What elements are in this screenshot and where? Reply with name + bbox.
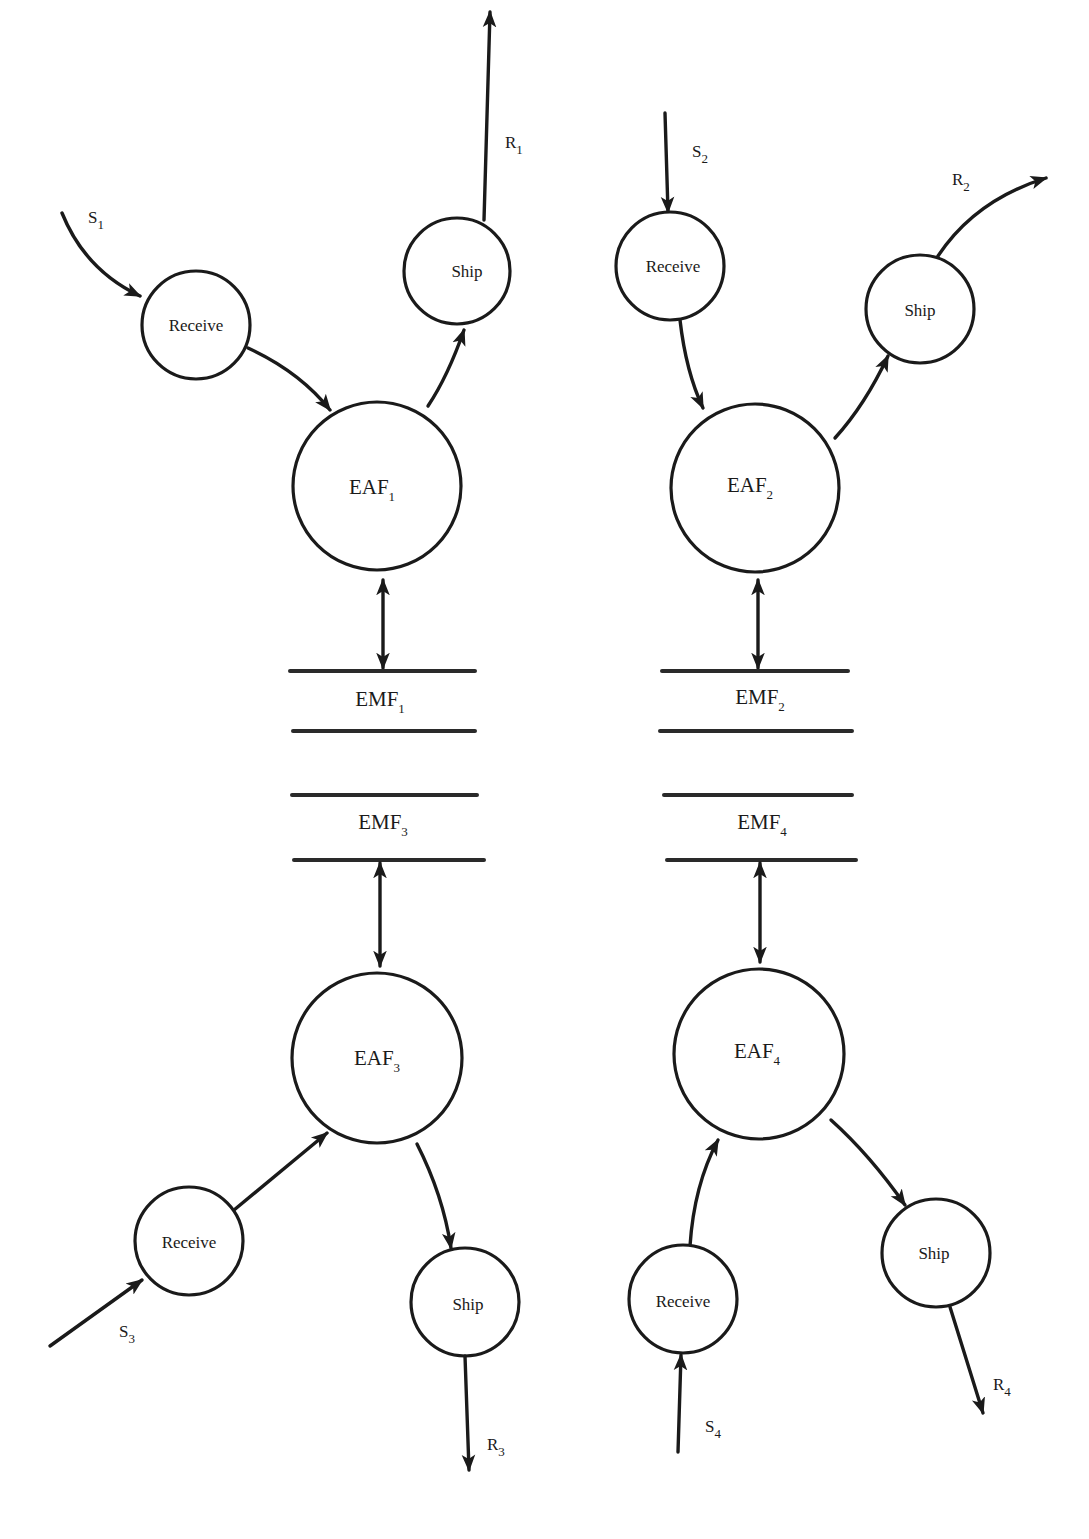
emf-label-4: EMF4 [737, 810, 787, 839]
quadrant-3: EAF3 Receive S3 Ship R3 [50, 863, 519, 1470]
receive-label-2: Receive [646, 257, 701, 276]
eaf-to-ship-3-arrow [417, 1144, 451, 1248]
receive-label-3: Receive [162, 1233, 217, 1252]
eaf-to-ship-4-arrow [831, 1120, 905, 1205]
ship-label-1: Ship [451, 262, 482, 281]
ship-label-3: Ship [452, 1295, 483, 1314]
emf-label-3: EMF3 [358, 810, 408, 839]
result-label-r2: R2 [952, 170, 970, 194]
data-store-emf-1[interactable]: EMF1 [290, 671, 475, 731]
data-flow-diagram: S1 Receive EAF1 Ship R1 S2 Receive [0, 0, 1089, 1539]
ship-label-2: Ship [904, 301, 935, 320]
supply-label-s1: S1 [88, 208, 104, 232]
result-flow-r2-arrow [938, 178, 1046, 256]
supply-flow-s4-arrow [678, 1355, 681, 1452]
result-label-r3: R3 [487, 1435, 505, 1459]
receive-label-4: Receive [656, 1292, 711, 1311]
supply-label-s4: S4 [705, 1417, 721, 1441]
receive-to-eaf-1-arrow [248, 348, 330, 410]
emf-label-2: EMF2 [735, 685, 785, 714]
supply-label-s3: S3 [119, 1322, 135, 1346]
result-label-r4: R4 [993, 1375, 1011, 1399]
ship-label-4: Ship [918, 1244, 949, 1263]
quadrant-4: EAF4 Receive S4 Ship R4 [629, 863, 1011, 1452]
data-store-emf-4[interactable]: EMF4 [664, 795, 856, 860]
receive-to-eaf-3-arrow [234, 1133, 327, 1210]
data-store-emf-2[interactable]: EMF2 [660, 671, 852, 731]
eaf-to-ship-2-arrow [835, 356, 888, 438]
result-label-r1: R1 [505, 133, 523, 157]
result-flow-r1-arrow [484, 12, 490, 220]
receive-to-eaf-4-arrow [690, 1140, 718, 1246]
result-flow-r3-arrow [465, 1356, 469, 1470]
eaf-to-ship-1-arrow [428, 330, 464, 406]
quadrant-1: S1 Receive EAF1 Ship R1 [62, 12, 523, 668]
emf-label-1: EMF1 [355, 687, 405, 716]
quadrant-2: S2 Receive EAF2 Ship R2 [616, 113, 1046, 668]
supply-label-s2: S2 [692, 142, 708, 166]
data-store-emf-3[interactable]: EMF3 [292, 795, 484, 860]
receive-to-eaf-2-arrow [680, 320, 703, 408]
receive-label-1: Receive [169, 316, 224, 335]
supply-flow-s2-arrow [665, 113, 668, 212]
result-flow-r4-arrow [950, 1307, 983, 1413]
